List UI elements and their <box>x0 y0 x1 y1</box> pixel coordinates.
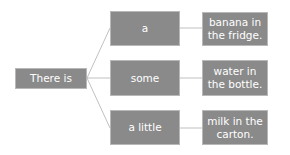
root-label: There is <box>30 72 72 85</box>
completion-node-water: water in the bottle. <box>202 60 268 96</box>
quantifier-node-a-little: a little <box>110 110 180 145</box>
completion-node-milk: milk in the carton. <box>202 110 268 145</box>
completion-label: milk in the carton. <box>206 115 264 141</box>
quantifier-label: some <box>131 72 160 85</box>
quantifier-node-a: a <box>110 11 180 46</box>
completion-label: banana in the fridge. <box>207 16 263 42</box>
completion-node-banana: banana in the fridge. <box>202 12 268 46</box>
quantifier-label: a <box>142 22 148 35</box>
quantifier-label: a little <box>128 121 161 134</box>
quantifier-node-some: some <box>110 60 180 96</box>
root-node: There is <box>15 68 87 89</box>
completion-label: water in the bottle. <box>207 65 263 91</box>
